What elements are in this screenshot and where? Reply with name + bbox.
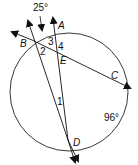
- arc-measure-96: 96°: [104, 113, 119, 123]
- ray-da-up: [53, 18, 68, 140]
- angle-measure-25: 25°: [33, 3, 48, 13]
- point-d-label: D: [73, 138, 80, 148]
- angle-3-label: 3: [48, 37, 54, 47]
- circle-secants-figure: [0, 0, 138, 165]
- point-b-label: B: [20, 39, 27, 49]
- point-c-label: C: [111, 71, 118, 81]
- angle-4-label: 4: [58, 42, 64, 52]
- point-a-label: A: [58, 21, 65, 31]
- angle-pointer-arrow: [40, 16, 42, 30]
- angle-2-label: 2: [40, 47, 46, 57]
- angle-1-label: 1: [57, 97, 63, 107]
- point-e-label: E: [60, 56, 67, 66]
- geometry-diagram: 25° A B 3 4 2 E C 1 96° D: [0, 0, 138, 165]
- circle: [10, 33, 128, 151]
